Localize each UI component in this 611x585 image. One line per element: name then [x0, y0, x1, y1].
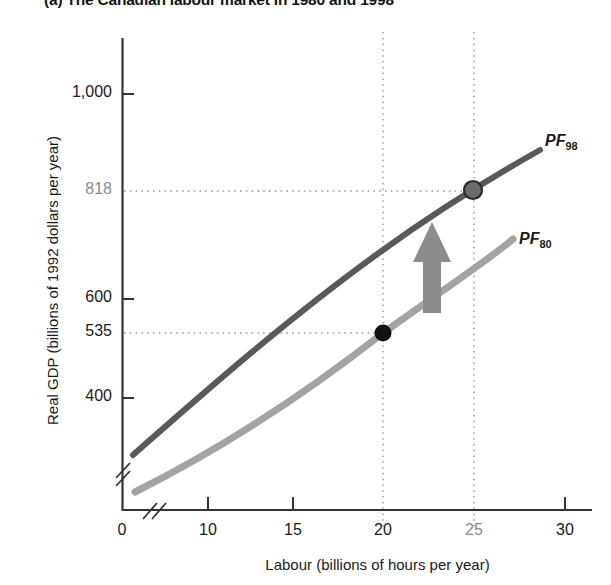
curve-label-pf98-text: PF: [545, 132, 565, 149]
axis-lines: [122, 38, 592, 511]
curve-label-pf80-sub: 80: [539, 238, 551, 250]
grid-guides: [124, 32, 474, 530]
curve-label-pf80: PF80: [519, 230, 552, 250]
curve-label-pf98-sub: 98: [565, 140, 577, 152]
curve-label-pf80-text: PF: [519, 230, 539, 247]
shift-arrow-icon: [413, 222, 451, 313]
curve-pf80: [135, 239, 513, 492]
curve-label-pf98: PF98: [545, 132, 578, 152]
marker-1980: [375, 325, 392, 342]
x-tick-marks: [208, 497, 565, 510]
marker-1998: [464, 181, 482, 199]
y-tick-marks: [122, 94, 134, 398]
chart-figure: (a) The Canadian labour market in 1980 a…: [0, 0, 611, 585]
